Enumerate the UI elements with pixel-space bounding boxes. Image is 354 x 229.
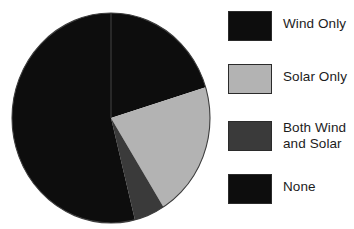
legend-item-wind-only[interactable]: Wind Only — [228, 10, 346, 41]
pie-chart-area — [0, 0, 222, 229]
legend-label-solar-only: Solar Only — [283, 63, 347, 85]
chart-legend: Wind Only Solar Only Both Wind and Solar… — [228, 0, 354, 229]
legend-label-wind-only: Wind Only — [283, 10, 346, 32]
legend-item-both-wind-and-solar[interactable]: Both Wind and Solar — [228, 120, 346, 151]
legend-label-none: None — [283, 173, 316, 195]
legend-swatch-none — [228, 174, 272, 204]
legend-swatch-both-wind-and-solar — [228, 121, 272, 151]
legend-swatch-wind-only — [228, 11, 272, 41]
legend-item-solar-only[interactable]: Solar Only — [228, 63, 347, 94]
legend-label-both-wind-and-solar: Both Wind and Solar — [283, 120, 346, 151]
legend-swatch-solar-only — [228, 64, 272, 94]
legend-item-none[interactable]: None — [228, 173, 316, 204]
pie-chart-graphic — [11, 12, 211, 224]
